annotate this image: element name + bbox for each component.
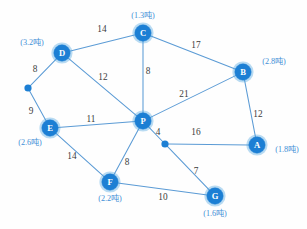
edge-w2-a	[168, 144, 249, 145]
edge-weight-d-p: 12	[98, 73, 107, 82]
tonnage-label-f: (2.2吨)	[98, 195, 122, 203]
tonnage-label-b: (2.8吨)	[262, 58, 286, 66]
edge-weight-p-b: 21	[179, 90, 188, 99]
tonnage-label-c: (1.3吨)	[131, 12, 155, 20]
tonnage-label-a: (1.8吨)	[275, 146, 299, 154]
node-p[interactable]	[135, 113, 151, 129]
tonnage-label-e: (2.6吨)	[18, 139, 42, 147]
edge-weight-d-c: 14	[97, 25, 106, 34]
tonnage-label-g: (1.6吨)	[203, 210, 227, 218]
node-f[interactable]	[102, 174, 118, 190]
node-e[interactable]	[42, 120, 58, 136]
nodes-layer: CDBEPAFG	[24, 22, 267, 206]
edge-f-p	[114, 128, 140, 175]
edge-d-c	[69, 35, 135, 51]
waypoint-node-w1[interactable]	[24, 84, 31, 91]
edge-weight-e-f: 14	[67, 152, 76, 161]
node-c[interactable]	[135, 25, 151, 41]
edge-weight-f-g: 10	[158, 193, 167, 202]
node-b[interactable]	[235, 64, 251, 80]
edge-weight-e-p: 11	[87, 115, 96, 124]
edge-weight-w2-a: 16	[191, 128, 200, 137]
graph-diagram-canvas: CDBEPAFG 141712821128911416148710 (1.3吨)…	[0, 0, 307, 229]
edge-weight-w2-g: 7	[194, 167, 199, 176]
edge-weight-d-w1: 8	[33, 65, 38, 74]
edge-weight-b-a: 12	[253, 110, 262, 119]
edge-e-p	[58, 122, 136, 128]
node-a[interactable]	[249, 137, 265, 153]
edge-d-p	[68, 58, 137, 116]
node-d[interactable]	[54, 45, 70, 61]
edge-weight-c-b: 17	[191, 41, 200, 50]
edge-p-b	[150, 75, 236, 117]
edge-weight-w1-e: 9	[29, 107, 34, 116]
tonnage-label-d: (3.2吨)	[20, 39, 44, 47]
edge-e-f	[56, 133, 105, 177]
waypoint-node-w2[interactable]	[161, 140, 168, 147]
edge-weight-c-p: 8	[146, 67, 151, 76]
edge-weight-f-p: 8	[125, 158, 130, 167]
edge-w2-g	[167, 146, 210, 190]
node-g[interactable]	[207, 188, 223, 204]
edge-weight-p-w2: 4	[156, 128, 161, 137]
